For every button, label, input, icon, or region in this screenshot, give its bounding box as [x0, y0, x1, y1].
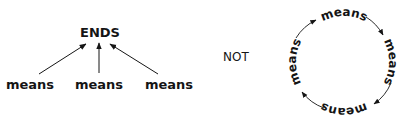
circle-means-left: means [285, 36, 304, 87]
arc-arrow-top-to-right [366, 17, 383, 35]
arrow-right-to-ends [110, 44, 158, 74]
arc-arrow-left-to-top [296, 20, 316, 38]
circle-means-top: means [319, 5, 370, 24]
circle-means-bottom: means [318, 100, 369, 119]
arrow-left-to-ends [39, 44, 86, 74]
arc-arrow-right-to-bottom [374, 83, 391, 104]
not-label: NOT [223, 50, 249, 64]
ends-label: ENDS [80, 25, 120, 40]
hierarchy-diagram: ENDS means means means [6, 25, 193, 92]
ends-means-diagram: ENDS means means means NOT means means m… [0, 0, 416, 127]
circle-means-right: means [381, 37, 400, 88]
arc-arrow-bottom-to-left [302, 92, 324, 108]
means-label-middle: means [75, 77, 123, 92]
means-label-left: means [6, 77, 54, 92]
circular-diagram: means means means means [285, 5, 400, 119]
means-label-right: means [145, 77, 193, 92]
